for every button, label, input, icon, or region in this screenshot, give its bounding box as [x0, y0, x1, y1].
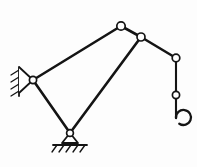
boom-head-joint: [137, 33, 145, 41]
sheave-joint: [172, 54, 180, 62]
boom-apex-joint: [117, 22, 125, 30]
wall-pivot-joint: [29, 76, 36, 83]
cable-link-joint: [172, 91, 179, 98]
ground-pivot-joint: [67, 130, 74, 137]
mechanism-diagram-canvas: [0, 0, 197, 167]
linkage-diagram-svg: [0, 0, 197, 167]
